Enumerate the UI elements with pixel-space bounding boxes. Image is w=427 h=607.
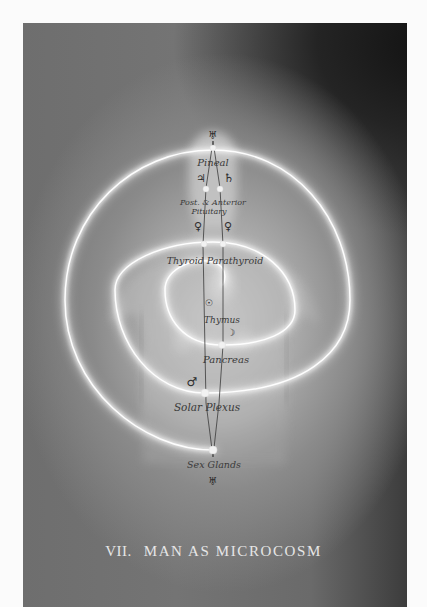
jupiter-icon: ♃ [196, 172, 206, 185]
microcosm-illustration: Pineal Post. & Anterior Pituitary Thyroi… [23, 23, 407, 607]
plate-caption: VII.MAN AS MICROCOSM [0, 543, 427, 560]
label-pineal: Pineal [196, 157, 228, 168]
illustration-plate: Pineal Post. & Anterior Pituitary Thyroi… [23, 23, 407, 607]
saturn-icon: ♄ [224, 171, 235, 185]
plate-number: VII. [105, 543, 132, 559]
sun-icon: ☉ [205, 298, 213, 308]
mars-icon: ♂ [187, 375, 198, 389]
label-sex-glands: Sex Glands [187, 459, 241, 470]
plate-title: MAN AS MICROCOSM [144, 543, 322, 559]
uranus-icon-top: ♅ [208, 129, 218, 142]
label-pituitary-line2: Pituitary [190, 207, 227, 216]
label-pituitary-line1: Post. & Anterior [179, 198, 247, 207]
label-solar-plexus: Solar Plexus [174, 401, 241, 413]
label-pancreas: Pancreas [202, 354, 249, 365]
label-thymus: Thymus [204, 315, 240, 325]
venus-icon-right: ♀ [224, 220, 232, 233]
moon-icon: ☽ [227, 327, 236, 338]
uranus-icon-bottom: ♅ [208, 475, 218, 488]
venus-icon-left: ♀ [194, 220, 202, 233]
label-thyroid-parathyroid: Thyroid Parathyroid [167, 255, 264, 266]
